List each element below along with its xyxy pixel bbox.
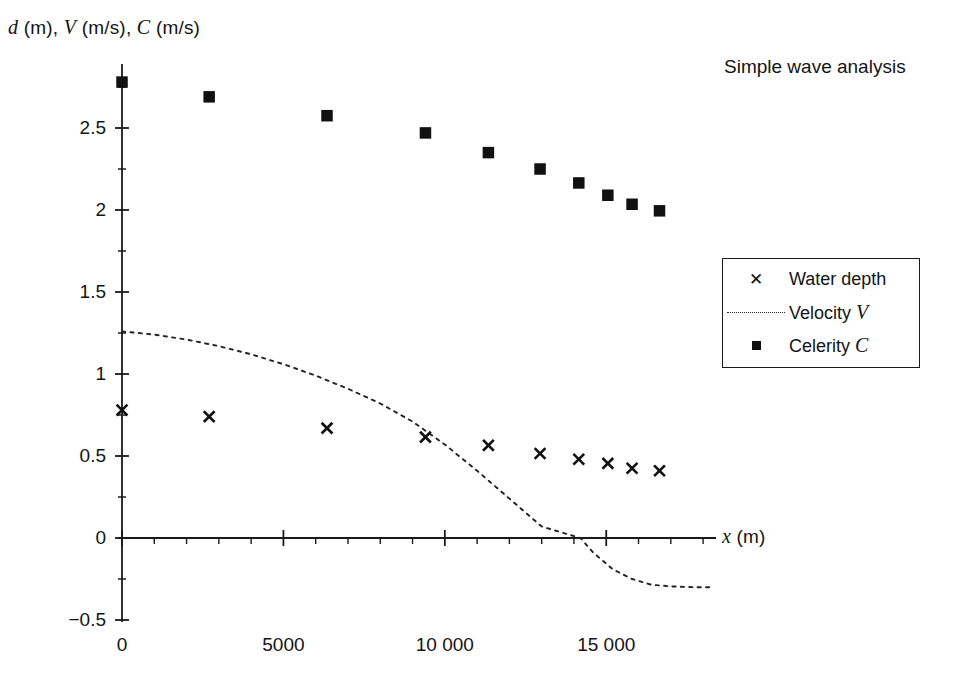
x-tick-label: 5000 bbox=[262, 634, 304, 656]
y-tick-label: 0 bbox=[28, 527, 106, 549]
x-tick-label: 15 000 bbox=[577, 634, 635, 656]
velocity-dotted-curve bbox=[122, 331, 710, 587]
water-depth-marker bbox=[483, 440, 494, 451]
water-depth-marker bbox=[573, 454, 584, 465]
legend-label-velocity: Velocity V bbox=[789, 301, 868, 324]
water-depth-marker bbox=[204, 411, 215, 422]
water-depth-marker bbox=[654, 465, 665, 476]
water-depth-marker bbox=[322, 423, 333, 434]
chart-figure: d (m), V (m/s), C (m/s) Simple wave anal… bbox=[0, 0, 961, 687]
y-tick-label: 2 bbox=[28, 199, 106, 221]
y-tick-label: 1 bbox=[28, 363, 106, 385]
celerity-marker bbox=[602, 189, 614, 201]
celerity-marker bbox=[321, 110, 333, 122]
y-tick-label: 0.5 bbox=[28, 445, 106, 467]
dotted-line-icon bbox=[723, 296, 789, 329]
celerity-marker bbox=[483, 147, 495, 159]
series-water-depth-markers bbox=[117, 405, 665, 476]
legend-label-celerity: Celerity C bbox=[789, 334, 868, 357]
y-tick-label: 1.5 bbox=[28, 281, 106, 303]
celerity-marker bbox=[116, 76, 128, 88]
series-velocity-line bbox=[122, 331, 710, 587]
x-tick-label: 10 000 bbox=[416, 634, 474, 656]
legend-item-celerity: Celerity C bbox=[723, 329, 919, 362]
celerity-marker bbox=[203, 91, 215, 103]
x-marker-icon: ✕ bbox=[723, 263, 789, 296]
celerity-marker bbox=[534, 163, 546, 175]
legend-label-water-depth: Water depth bbox=[789, 269, 886, 290]
celerity-marker bbox=[420, 127, 432, 139]
celerity-marker bbox=[573, 177, 585, 189]
water-depth-marker bbox=[535, 448, 546, 459]
square-marker-icon bbox=[723, 329, 789, 362]
legend-item-velocity: Velocity V bbox=[723, 296, 919, 329]
water-depth-marker bbox=[602, 458, 613, 469]
legend-item-water-depth: ✕ Water depth bbox=[723, 263, 919, 296]
chart-legend: ✕ Water depth Velocity V Celerity C bbox=[722, 258, 920, 368]
celerity-marker bbox=[626, 199, 638, 211]
x-tick-label: 0 bbox=[117, 634, 128, 656]
celerity-marker bbox=[654, 205, 666, 217]
series-celerity-markers bbox=[116, 76, 665, 216]
y-tick-label: −0.5 bbox=[28, 609, 106, 631]
water-depth-marker bbox=[420, 432, 431, 443]
y-tick-label: 2.5 bbox=[28, 117, 106, 139]
water-depth-marker bbox=[627, 463, 638, 474]
